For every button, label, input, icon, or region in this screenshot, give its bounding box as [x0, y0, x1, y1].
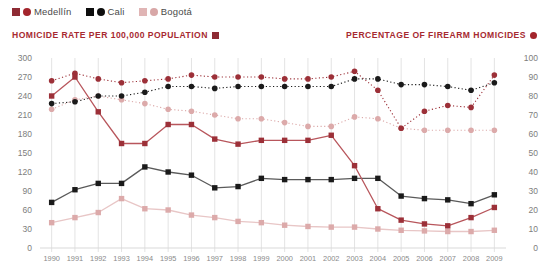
data-point-medellin — [119, 80, 125, 86]
data-point-medellin — [445, 223, 450, 228]
data-point-medellin — [119, 141, 124, 146]
data-point-cali — [492, 80, 498, 86]
left-axis-title-text: HOMICIDE RATE PER 100,000 POPULATION — [12, 30, 208, 40]
y-axis-tick-right: 100 — [512, 53, 538, 63]
data-point-bogotá — [468, 229, 473, 234]
plot-area — [40, 58, 506, 248]
data-point-cali — [235, 84, 241, 90]
chart-legend: Medellín Cali Bogotá — [12, 6, 192, 17]
data-point-bogotá — [235, 116, 241, 122]
data-point-cali — [189, 84, 195, 90]
legend-label-medellin: Medellín — [34, 6, 72, 17]
data-point-medellin — [96, 109, 101, 114]
data-point-medellin — [492, 205, 497, 210]
data-point-bogotá — [282, 223, 287, 228]
data-point-medellin — [189, 122, 194, 127]
chart-svg — [40, 58, 506, 254]
series-line-bogotá-right — [52, 96, 495, 130]
data-point-bogotá — [212, 215, 217, 220]
data-point-medellin — [328, 74, 334, 80]
data-point-bogotá — [119, 196, 124, 201]
legend-label-bogota: Bogotá — [161, 6, 192, 17]
data-point-cali — [119, 93, 125, 99]
data-point-cali — [72, 99, 78, 105]
data-point-medellin — [49, 78, 55, 84]
data-point-medellin — [398, 217, 403, 222]
y-axis-tick-left: 30 — [6, 224, 32, 234]
data-point-bogotá — [352, 224, 357, 229]
left-axis-title: HOMICIDE RATE PER 100,000 POPULATION — [12, 30, 219, 40]
data-point-bogotá — [212, 112, 218, 118]
y-axis-tick-left: 240 — [6, 91, 32, 101]
data-point-medellin — [375, 88, 381, 94]
data-point-medellin — [49, 93, 54, 98]
data-point-cali — [142, 89, 148, 95]
y-axis-tick-right: 50 — [512, 148, 538, 158]
legend-circle-bogota — [150, 8, 158, 16]
data-point-medellin — [352, 69, 358, 75]
legend-square-medellin — [12, 8, 20, 16]
data-point-bogotá — [492, 228, 497, 233]
data-point-cali — [72, 187, 77, 192]
y-axis-tick-right: 30 — [512, 186, 538, 196]
data-point-bogotá — [96, 210, 101, 215]
data-point-bogotá — [49, 107, 55, 113]
data-point-cali — [282, 177, 287, 182]
data-point-medellin — [282, 76, 288, 82]
data-point-bogotá — [305, 224, 310, 229]
data-point-medellin — [212, 136, 217, 141]
legend-item-cali: Cali — [86, 6, 125, 17]
data-point-cali — [468, 88, 474, 94]
data-point-bogotá — [375, 226, 380, 231]
data-point-medellin — [352, 163, 357, 168]
data-point-cali — [259, 176, 264, 181]
data-point-cali — [142, 164, 147, 169]
data-point-medellin — [235, 141, 240, 146]
data-point-cali — [468, 201, 473, 206]
y-axis-tick-left: 180 — [6, 129, 32, 139]
x-axis-tick-2009: 2009 — [479, 254, 509, 263]
data-point-medellin — [165, 76, 171, 82]
data-point-bogotá — [165, 107, 171, 113]
data-point-bogotá — [259, 116, 265, 122]
y-axis-tick-left: 90 — [6, 186, 32, 196]
legend-label-cali: Cali — [108, 6, 125, 17]
data-point-bogotá — [235, 219, 240, 224]
y-axis-tick-left: 210 — [6, 110, 32, 120]
y-axis-tick-right: 80 — [512, 91, 538, 101]
data-point-medellin — [329, 133, 334, 138]
data-point-bogotá — [328, 124, 334, 130]
data-point-cali — [259, 84, 265, 90]
data-point-cali — [305, 177, 310, 182]
right-axis-title: PERCENTAGE OF FIREARM HOMICIDES — [346, 30, 537, 40]
data-point-medellin — [259, 74, 265, 80]
data-point-cali — [165, 169, 170, 174]
data-point-cali — [282, 84, 288, 90]
data-point-cali — [445, 84, 451, 90]
right-axis-title-text: PERCENTAGE OF FIREARM HOMICIDES — [346, 30, 526, 40]
data-point-medellin — [398, 126, 404, 132]
data-point-bogotá — [492, 127, 498, 133]
data-point-cali — [305, 84, 311, 90]
data-point-cali — [235, 184, 240, 189]
data-point-bogotá — [189, 212, 194, 217]
data-point-medellin — [468, 215, 473, 220]
y-axis-tick-right: 10 — [512, 224, 538, 234]
data-point-bogotá — [259, 220, 264, 225]
data-point-cali — [398, 82, 404, 88]
data-point-cali — [95, 93, 101, 99]
data-point-medellin — [282, 138, 287, 143]
data-point-bogotá — [165, 207, 170, 212]
y-axis-tick-left: 60 — [6, 205, 32, 215]
data-point-bogotá — [375, 116, 381, 122]
data-point-bogotá — [305, 124, 311, 130]
data-point-bogotá — [422, 127, 428, 133]
series-line-bogotá-left — [52, 199, 495, 232]
legend-circle-cali — [97, 8, 105, 16]
data-point-medellin — [259, 138, 264, 143]
circle-marker-icon — [530, 32, 537, 39]
data-point-medellin — [305, 138, 310, 143]
data-point-cali — [49, 101, 55, 107]
data-point-cali — [492, 192, 497, 197]
data-point-bogotá — [189, 108, 195, 114]
